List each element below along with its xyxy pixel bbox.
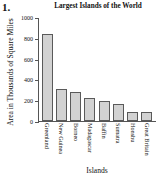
x-tick-slot: Honshu [126,123,140,165]
y-tick-label: 200 [24,98,33,104]
x-tick-slot: Madagascar [83,123,97,165]
x-axis-line [38,121,156,122]
bar [42,34,53,121]
x-tick-slot: Greenland [40,123,54,165]
x-tick-slot: Borneo [69,123,83,165]
x-axis-title: Islands [38,166,156,175]
bar [56,89,67,121]
bar [70,92,81,121]
x-tick-label: Madagascar [87,123,93,153]
bar [127,112,138,121]
x-tick-label: Honshu [130,123,136,142]
bar-slot [69,18,83,121]
chart-title: Largest Islands of the World [36,2,160,11]
y-axis-title-container: Area in Thousands of Square Miles [4,18,17,126]
x-tick-label: Great Britain [144,123,150,155]
y-tick-label: 400 [24,77,33,83]
x-tick-label: Borneo [73,123,79,141]
x-tick-label: New Guinea [58,123,64,154]
x-axis-tick-labels: GreenlandNew GuineaBorneoMadagascarBaffi… [39,123,156,165]
y-tick-label: 600 [24,57,33,63]
y-tick-label: 1000 [21,15,33,21]
bar-slot [111,18,125,121]
bar-slot [83,18,97,121]
bar-slot [54,18,68,121]
x-tick-slot: New Guinea [54,123,68,165]
bar [99,101,110,121]
y-axis-title: Area in Thousands of Square Miles [7,18,15,126]
bar-series [39,18,156,121]
x-tick-label: Greenland [44,123,50,149]
bar-slot [40,18,54,121]
bar [141,112,152,121]
x-tick-slot: Baffin [97,123,111,165]
bar-slot [126,18,140,121]
bar-slot [140,18,154,121]
x-tick-label: Baffin [101,123,107,139]
x-tick-slot: Great Britain [140,123,154,165]
plot-area: 02004006008001000 [38,18,156,122]
bar-chart-figure: 1. Largest Islands of the World Area in … [0,0,162,191]
x-tick-label: Sumatra [115,123,121,144]
bar [84,98,95,121]
y-tick-label: 0 [30,119,33,125]
x-tick-slot: Sumatra [111,123,125,165]
y-tick-label: 800 [24,36,33,42]
bar-slot [97,18,111,121]
bar [113,104,124,121]
problem-number: 1. [2,2,10,13]
